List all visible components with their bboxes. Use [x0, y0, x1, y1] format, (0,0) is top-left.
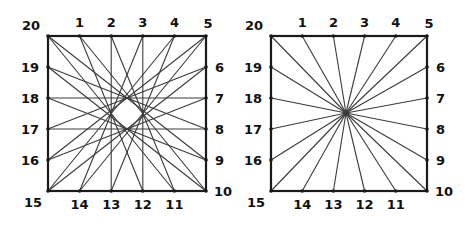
- point-marker: [46, 189, 50, 193]
- point-marker: [425, 96, 429, 100]
- point-marker: [363, 34, 367, 38]
- point-marker: [394, 189, 398, 193]
- point-label-7: 7: [436, 91, 445, 106]
- point-marker: [46, 34, 50, 38]
- point-marker: [109, 34, 113, 38]
- point-label-12: 12: [134, 197, 152, 212]
- point-marker: [141, 189, 145, 193]
- point-label-16: 16: [21, 153, 39, 168]
- point-label-15: 15: [247, 195, 265, 210]
- point-label-20: 20: [22, 18, 40, 33]
- point-marker: [269, 189, 273, 193]
- radial-line: [346, 113, 427, 191]
- point-label-11: 11: [387, 197, 405, 212]
- panel-chord-pattern: 2012345678910111213141516171819: [21, 15, 232, 212]
- point-marker: [46, 127, 50, 131]
- point-label-14: 14: [71, 197, 89, 212]
- point-label-3: 3: [360, 15, 369, 30]
- point-marker: [425, 158, 429, 162]
- point-label-1: 1: [75, 15, 84, 30]
- point-label-19: 19: [21, 60, 39, 75]
- point-label-8: 8: [215, 122, 224, 137]
- point-marker: [109, 189, 113, 193]
- point-label-10: 10: [435, 184, 453, 199]
- chord-lines: [271, 36, 427, 191]
- point-marker: [78, 189, 82, 193]
- radial-line: [346, 113, 396, 191]
- chord-lines: [48, 36, 206, 191]
- point-label-2: 2: [329, 15, 338, 30]
- point-marker: [363, 189, 367, 193]
- point-label-9: 9: [436, 153, 445, 168]
- point-marker: [300, 189, 304, 193]
- point-marker: [46, 158, 50, 162]
- point-label-17: 17: [244, 122, 262, 137]
- point-label-10: 10: [214, 184, 232, 199]
- point-label-11: 11: [165, 197, 183, 212]
- radial-line: [346, 113, 365, 191]
- point-label-4: 4: [170, 15, 179, 30]
- point-label-18: 18: [244, 91, 262, 106]
- point-label-18: 18: [21, 91, 39, 106]
- point-label-15: 15: [24, 195, 42, 210]
- point-marker: [425, 34, 429, 38]
- radial-line: [271, 113, 346, 160]
- point-label-5: 5: [203, 16, 212, 31]
- point-label-2: 2: [107, 15, 116, 30]
- string-art-diagrams: 2012345678910111213141516171819 20123456…: [0, 0, 467, 225]
- point-marker: [173, 34, 177, 38]
- point-marker: [204, 158, 208, 162]
- point-marker: [269, 158, 273, 162]
- point-marker: [269, 96, 273, 100]
- point-label-14: 14: [293, 197, 311, 212]
- point-label-3: 3: [138, 15, 147, 30]
- point-marker: [204, 34, 208, 38]
- point-marker: [300, 34, 304, 38]
- point-label-5: 5: [424, 16, 433, 31]
- point-label-7: 7: [215, 91, 224, 106]
- point-marker: [173, 189, 177, 193]
- point-marker: [269, 34, 273, 38]
- radial-line: [271, 113, 346, 129]
- point-label-13: 13: [102, 197, 120, 212]
- point-label-16: 16: [244, 153, 262, 168]
- radial-line: [346, 113, 427, 129]
- point-label-1: 1: [298, 15, 307, 30]
- point-label-6: 6: [215, 60, 224, 75]
- point-label-12: 12: [356, 197, 374, 212]
- point-marker: [394, 34, 398, 38]
- point-label-13: 13: [324, 197, 342, 212]
- square-frame: [48, 36, 206, 191]
- point-marker: [204, 96, 208, 100]
- point-marker: [425, 189, 429, 193]
- panel-radial-star: 2012345678910111213141516171819: [244, 15, 453, 212]
- point-marker: [78, 34, 82, 38]
- point-marker: [204, 127, 208, 131]
- diagram-stage: 2012345678910111213141516171819 20123456…: [0, 0, 467, 225]
- point-marker: [46, 96, 50, 100]
- point-marker: [425, 127, 429, 131]
- point-marker: [425, 65, 429, 69]
- point-marker: [141, 34, 145, 38]
- point-marker: [332, 34, 336, 38]
- point-marker: [46, 65, 50, 69]
- point-label-4: 4: [391, 15, 400, 30]
- point-marker: [269, 65, 273, 69]
- radial-line: [346, 36, 365, 113]
- point-label-6: 6: [436, 60, 445, 75]
- point-label-17: 17: [21, 122, 39, 137]
- radial-line: [346, 113, 427, 160]
- point-marker: [204, 65, 208, 69]
- point-marker: [269, 127, 273, 131]
- point-marker: [204, 189, 208, 193]
- point-label-8: 8: [436, 122, 445, 137]
- point-label-20: 20: [245, 18, 263, 33]
- point-label-19: 19: [244, 60, 262, 75]
- radial-line: [346, 36, 396, 113]
- point-marker: [332, 189, 336, 193]
- point-label-9: 9: [215, 153, 224, 168]
